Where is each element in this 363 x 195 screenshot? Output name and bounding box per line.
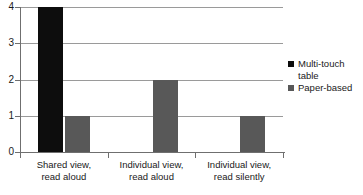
- x-axis-category-label: Individual view,read silently: [195, 159, 283, 183]
- legend-label: Paper-based: [298, 82, 362, 94]
- legend-swatch-icon: [288, 61, 294, 67]
- bar: [240, 116, 265, 152]
- y-axis-tick-label: 0: [2, 147, 14, 157]
- bar: [65, 116, 90, 152]
- x-axis-tick-mark: [20, 152, 21, 158]
- legend-label: table: [298, 70, 362, 82]
- x-axis-tick-mark: [195, 152, 196, 158]
- x-axis-category-label-line: read aloud: [20, 171, 108, 183]
- x-axis-tick-mark: [108, 152, 109, 158]
- x-axis-category-label: Shared view,read aloud: [20, 159, 108, 183]
- bar: [153, 80, 178, 153]
- y-axis-line: [20, 7, 21, 153]
- x-axis-category-label-line: read aloud: [108, 171, 196, 183]
- y-axis-tick-mark: [15, 43, 20, 44]
- chart-legend: Multi-touchtablePaper-based: [288, 58, 362, 95]
- plot-area: [20, 7, 283, 152]
- legend-item[interactable]: Paper-based: [288, 82, 362, 94]
- caption-strip: [0, 186, 363, 195]
- y-axis-tick-mark: [15, 7, 20, 8]
- y-axis-tick-label: 1: [2, 111, 14, 121]
- x-axis-category-label: Individual view,read aloud: [108, 159, 196, 183]
- y-axis-tick-mark: [15, 80, 20, 81]
- x-axis-category-label-line: Individual view,: [108, 159, 196, 171]
- x-axis-line: [20, 152, 285, 153]
- x-axis-category-label-line: Shared view,: [20, 159, 108, 171]
- y-axis-tick-label: 4: [2, 2, 14, 12]
- y-axis-tick-label: 3: [2, 38, 14, 48]
- y-axis-tick-mark: [15, 116, 20, 117]
- x-axis-category-label-line: read silently: [195, 171, 283, 183]
- bar: [38, 7, 63, 152]
- x-axis-category-labels: Shared view,read aloudIndividual view,re…: [20, 159, 283, 189]
- legend-label: Multi-touch: [298, 58, 362, 70]
- x-axis-category-label-line: Individual view,: [195, 159, 283, 171]
- y-axis-tick-labels: 01234: [0, 0, 14, 195]
- y-axis-tick-label: 2: [2, 75, 14, 85]
- x-axis-tick-mark: [283, 152, 284, 158]
- bar-chart: 01234 Shared view,read aloudIndividual v…: [0, 0, 363, 195]
- legend-swatch-icon: [288, 85, 294, 91]
- legend-item[interactable]: Multi-touchtable: [288, 58, 362, 81]
